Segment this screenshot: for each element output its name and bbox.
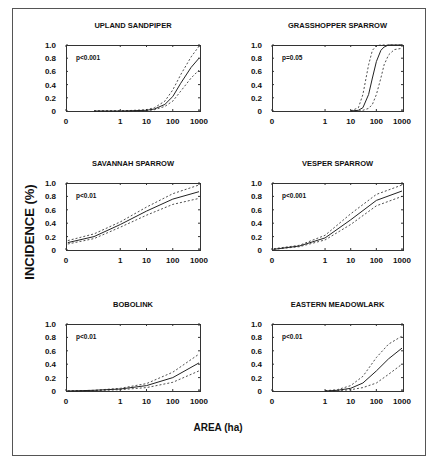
x-tick-label: 100 (166, 397, 180, 406)
y-tick-label: 1.0 (45, 320, 57, 329)
x-tick-label: 10 (142, 117, 151, 126)
x-tick-label: 1 (323, 256, 328, 265)
y-tick-label: 0.6 (45, 206, 57, 215)
y-tick-label: 0 (258, 107, 263, 116)
y-tick-label: 0.6 (45, 67, 57, 76)
y-tick-label: 0 (52, 107, 57, 116)
x-tick-label: 1000 (190, 117, 208, 126)
x-tick-label: 0 (64, 256, 69, 265)
y-tick-label: 0.6 (251, 347, 263, 356)
x-tick-label: 100 (166, 117, 180, 126)
x-tick-label: 10 (346, 397, 355, 406)
x-tick-label: 0 (64, 117, 69, 126)
y-tick-label: 0.8 (251, 333, 263, 342)
y-tick-label: 0.6 (251, 67, 263, 76)
y-tick-label: 1.0 (45, 179, 57, 188)
y-tick-label: 1.0 (45, 41, 57, 50)
panel-title: UPLAND SANDPIPER (94, 21, 172, 30)
x-tick-label: 0 (64, 397, 69, 406)
y-tick-label: 0.8 (45, 54, 57, 63)
y-tick-label: 0.8 (251, 54, 263, 63)
p-value-annotation: p<0.01 (282, 333, 303, 341)
y-tick-label: 0.4 (251, 81, 263, 90)
p-value-annotation: p<0.01 (76, 333, 97, 341)
figure: INCIDENCE (%) AREA (ha) UPLAND SANDPIPER… (0, 0, 437, 468)
y-tick-label: 0 (258, 387, 263, 396)
x-tick-label: 1 (323, 397, 328, 406)
p-value-annotation: p<0.01 (76, 192, 97, 200)
panel-title: SAVANNAH SPARROW (92, 159, 175, 168)
x-tick-label: 1 (118, 256, 123, 265)
panel-title: VESPER SPARROW (302, 159, 374, 168)
panel-title: EASTERN MEADOWLARK (291, 300, 385, 309)
x-tick-label: 10 (142, 256, 151, 265)
y-axis-label: INCIDENCE (%) (22, 184, 37, 279)
y-tick-label: 0.2 (45, 94, 57, 103)
y-tick-label: 0.4 (45, 81, 57, 90)
p-value-annotation: p<0.001 (76, 54, 100, 62)
y-tick-label: 0.4 (45, 219, 57, 228)
x-tick-label: 100 (370, 397, 384, 406)
y-tick-label: 0.2 (45, 374, 57, 383)
y-tick-label: 0.2 (251, 374, 263, 383)
x-tick-label: 10 (142, 397, 151, 406)
panel-title: GRASSHOPPER SPARROW (288, 21, 388, 30)
y-tick-label: 0.4 (45, 360, 57, 369)
x-tick-label: 0 (270, 256, 275, 265)
y-tick-label: 1.0 (251, 179, 263, 188)
x-tick-label: 1000 (393, 256, 411, 265)
x-tick-label: 1000 (190, 256, 208, 265)
x-tick-label: 100 (370, 256, 384, 265)
x-tick-label: 1000 (190, 397, 208, 406)
y-tick-label: 0 (52, 387, 57, 396)
x-tick-label: 0 (270, 117, 275, 126)
x-tick-label: 0 (270, 397, 275, 406)
y-tick-label: 1.0 (251, 320, 263, 329)
x-tick-label: 1 (323, 117, 328, 126)
x-axis-label: AREA (ha) (193, 422, 242, 433)
y-tick-label: 1.0 (251, 41, 263, 50)
y-tick-label: 0.8 (45, 192, 57, 201)
y-tick-label: 0.6 (251, 206, 263, 215)
y-tick-label: 0.2 (251, 94, 263, 103)
x-tick-label: 10 (346, 256, 355, 265)
y-tick-label: 0.6 (45, 347, 57, 356)
x-tick-label: 100 (370, 117, 384, 126)
y-tick-label: 0.4 (251, 219, 263, 228)
y-tick-label: 0.8 (45, 333, 57, 342)
x-tick-label: 100 (166, 256, 180, 265)
y-tick-label: 0.8 (251, 192, 263, 201)
x-tick-label: 1 (118, 397, 123, 406)
x-tick-label: 1000 (393, 397, 411, 406)
y-tick-label: 0.2 (45, 233, 57, 242)
x-tick-label: 10 (346, 117, 355, 126)
x-tick-label: 1 (118, 117, 123, 126)
y-tick-label: 0.4 (251, 360, 263, 369)
y-tick-label: 0.2 (251, 233, 263, 242)
panel-title: BOBOLINK (113, 300, 154, 309)
x-tick-label: 1000 (393, 117, 411, 126)
p-value-annotation: p<0.001 (282, 192, 306, 200)
y-tick-label: 0 (258, 246, 263, 255)
y-tick-label: 0 (52, 246, 57, 255)
figure-border (13, 9, 426, 456)
p-value-annotation: p=0.05 (282, 54, 303, 62)
